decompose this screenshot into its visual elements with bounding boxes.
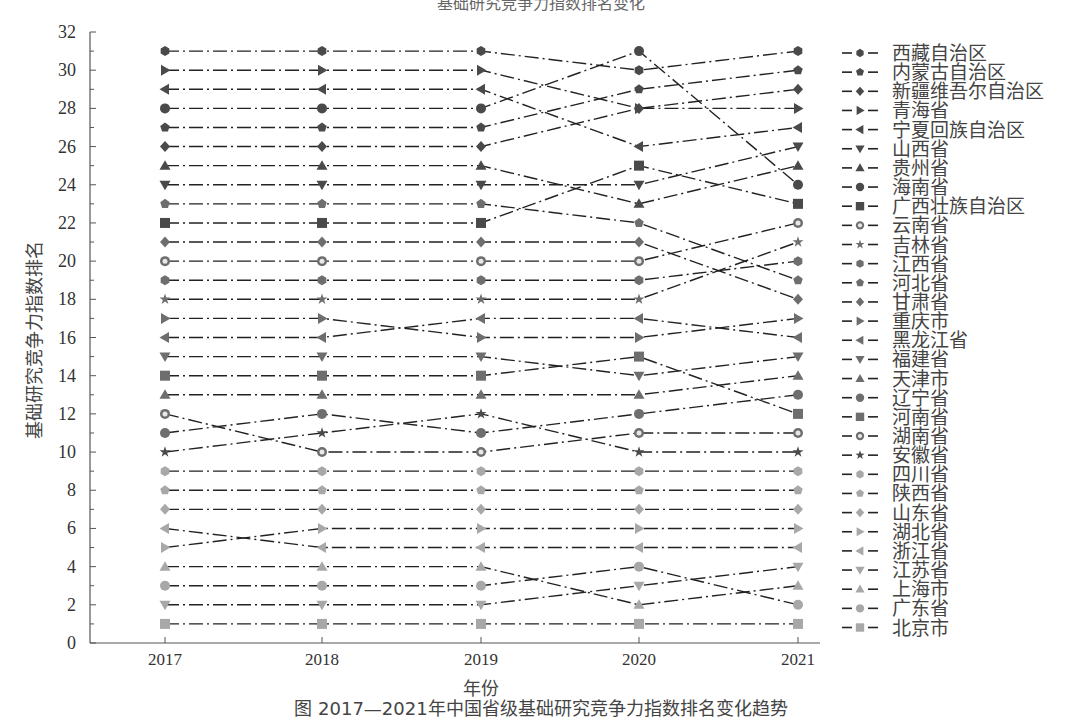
y-tick-label: 24 [58, 175, 76, 195]
y-tick-label: 2 [67, 595, 76, 615]
x-tick-label: 2019 [464, 650, 498, 669]
series-line [161, 466, 803, 476]
y-tick-label: 32 [58, 22, 76, 42]
y-tick-label: 20 [58, 251, 76, 271]
series-line [160, 619, 803, 629]
legend: 西藏自治区内蒙古自治区新疆维吾尔自治区青海省宁夏回族自治区山西省贵州省海南省广西… [842, 42, 1044, 639]
series-group [160, 46, 804, 629]
legend-label: 北京市 [892, 617, 949, 639]
y-tick-label: 30 [58, 60, 76, 80]
series-line [160, 84, 803, 152]
y-tick-label: 18 [58, 289, 76, 309]
y-tick-label: 4 [67, 557, 76, 577]
y-tick-label: 26 [58, 137, 76, 157]
y-tick-label: 6 [67, 518, 76, 538]
x-tick-label: 2017 [148, 650, 183, 669]
series-line [160, 485, 803, 494]
y-tick-label: 12 [58, 404, 76, 424]
y-tick-label: 22 [58, 213, 76, 233]
series-line [160, 504, 803, 515]
x-tick-label: 2018 [305, 650, 339, 669]
series-line [160, 161, 803, 228]
figure-caption: 图 2017—2021年中国省级基础研究竞争力指数排名变化趋势 [0, 694, 1082, 720]
x-tick-label: 2020 [622, 650, 656, 669]
y-tick-label: 10 [58, 442, 76, 462]
x-tick-label: 2021 [781, 650, 815, 669]
y-tick-label: 8 [67, 480, 76, 500]
series-line [160, 65, 803, 131]
y-axis-label: 基础研究竞争力指数排名 [20, 241, 46, 439]
y-tick-label: 0 [67, 633, 76, 653]
y-tick-label: 14 [58, 366, 76, 386]
series-line [160, 352, 803, 419]
legend-item: 北京市 [842, 617, 949, 639]
y-tick-label: 16 [58, 328, 76, 348]
y-tick-label: 28 [58, 98, 76, 118]
axes: 0246810121416182022242628303220172018201… [58, 22, 820, 669]
